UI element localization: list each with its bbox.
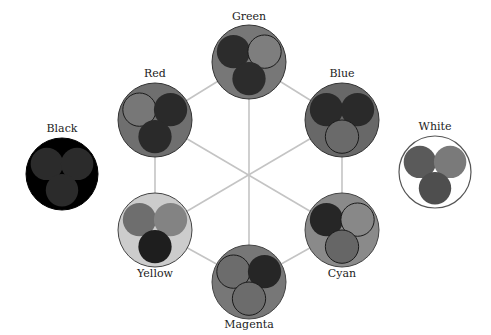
color-mixing-diagram: GreenRedBlueYellowCyanMagentaBlackWhite — [0, 0, 491, 335]
green-dot-bottom — [232, 62, 265, 95]
node-green: Green — [212, 10, 286, 99]
node-magenta: Magenta — [212, 245, 286, 331]
node-red: Red — [118, 67, 192, 157]
red-dot-bottom — [138, 120, 171, 153]
blue-dot-bottom — [325, 120, 358, 153]
white-label: White — [419, 120, 452, 133]
node-black: Black — [26, 122, 98, 210]
cyan-dot-bottom — [325, 230, 358, 263]
yellow-label: Yellow — [136, 267, 173, 280]
green-label: Green — [232, 10, 266, 23]
cyan-label: Cyan — [328, 267, 356, 280]
node-cyan: Cyan — [305, 193, 379, 280]
yellow-dot-bottom — [138, 230, 171, 263]
node-yellow: Yellow — [118, 193, 192, 280]
black-label: Black — [47, 122, 78, 135]
magenta-label: Magenta — [224, 318, 274, 331]
red-label: Red — [144, 67, 166, 80]
node-white: White — [399, 120, 471, 208]
black-dot-bottom — [46, 174, 78, 206]
blue-label: Blue — [329, 67, 354, 80]
magenta-dot-bottom — [232, 282, 265, 315]
white-dot-bottom — [419, 172, 451, 204]
node-blue: Blue — [305, 67, 379, 157]
